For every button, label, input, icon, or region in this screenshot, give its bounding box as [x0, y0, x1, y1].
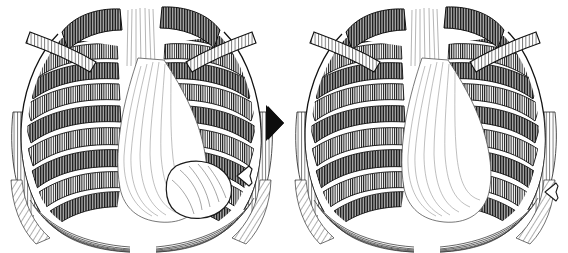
before-panel-illustration	[0, 0, 284, 253]
before-panel	[0, 0, 284, 253]
after-panel-illustration	[284, 0, 568, 253]
focal-opacity-lesion	[166, 161, 231, 218]
chest-radiograph-figure	[0, 0, 568, 253]
after-panel	[284, 0, 568, 253]
